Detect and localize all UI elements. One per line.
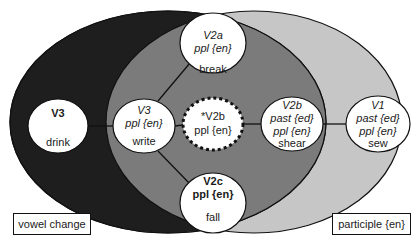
svg-text:V2a: V2a <box>203 29 223 41</box>
svg-text:ppl {en}: ppl {en} <box>194 124 232 136</box>
svg-text:ppl {en}: ppl {en} <box>193 42 232 54</box>
svg-text:V2c: V2c <box>203 175 223 187</box>
vowel-change-label: vowel change <box>13 213 91 235</box>
node-v2b-shear: V2b past {ed} ppl {en} shear <box>261 97 323 151</box>
svg-text:break: break <box>199 63 227 75</box>
svg-text:drink: drink <box>46 136 70 148</box>
node-v2b-hypothetical: *V2b ppl {en} <box>183 98 243 150</box>
svg-text:fall: fall <box>206 211 220 223</box>
node-v3-drink: V3 drink <box>28 99 88 153</box>
node-v1-sew: V1 past {ed} ppl {en} sew <box>346 96 410 152</box>
node-v3-write: V3 ppl {en} write <box>113 99 175 153</box>
svg-text:V2b: V2b <box>282 99 302 111</box>
venn-diagram: V3 drink V3 ppl {en} write V2a ppl {en} … <box>0 0 420 248</box>
svg-text:past {ed}: past {ed} <box>269 112 314 124</box>
svg-text:shear: shear <box>278 137 306 149</box>
svg-text:V3: V3 <box>137 104 151 116</box>
svg-text:V3: V3 <box>51 107 64 119</box>
svg-text:sew: sew <box>368 137 388 149</box>
svg-text:ppl {en}: ppl {en} <box>193 188 235 200</box>
svg-text:ppl {en}: ppl {en} <box>358 125 397 137</box>
node-v2c-fall: V2c ppl {en} fall <box>180 173 246 233</box>
svg-text:ppl {en}: ppl {en} <box>124 117 163 129</box>
svg-text:past {ed}: past {ed} <box>355 112 400 124</box>
svg-text:*V2b: *V2b <box>201 110 225 122</box>
svg-text:write: write <box>131 135 155 147</box>
participle-label: participle {en} <box>332 213 411 235</box>
svg-text:ppl {en}: ppl {en} <box>272 125 311 137</box>
svg-text:V1: V1 <box>371 99 384 111</box>
